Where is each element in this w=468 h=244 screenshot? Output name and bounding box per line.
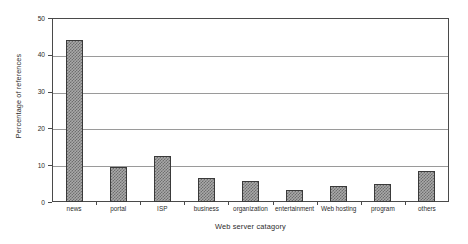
x-tick-label: Web hosting — [317, 205, 361, 213]
bar-news — [66, 40, 83, 202]
y-tick-label: 50 — [15, 15, 45, 22]
bar-portal — [110, 167, 127, 202]
bar-others — [418, 171, 435, 202]
x-tick-label: program — [361, 205, 405, 213]
bars-layer — [52, 18, 449, 202]
y-tick-mark — [48, 202, 52, 203]
x-tick-label: others — [405, 205, 449, 213]
y-tick-label: 40 — [15, 51, 45, 58]
y-tick-label: 0 — [15, 199, 45, 206]
bar-program — [374, 184, 391, 202]
y-tick-label: 20 — [15, 125, 45, 132]
bar-chart-figure: Percentage of references 01020304050 new… — [0, 0, 468, 244]
x-tick-label: news — [52, 205, 96, 213]
x-axis-labels: newsportalISPbusinessorganizationenterta… — [52, 205, 449, 217]
y-tick-label: 10 — [15, 162, 45, 169]
bar-business — [198, 178, 215, 202]
x-tick-label: ISP — [140, 205, 184, 213]
x-tick-label: organization — [228, 205, 272, 213]
x-axis-title: Web server catagory — [52, 222, 449, 231]
x-tick-label: business — [184, 205, 228, 213]
x-tick-label: portal — [96, 205, 140, 213]
x-tick-label: entertainment — [273, 205, 317, 213]
y-tick-label: 30 — [15, 88, 45, 95]
bar-web-hosting — [330, 186, 347, 202]
bar-isp — [154, 156, 171, 202]
bar-organization — [242, 181, 259, 202]
bar-entertainment — [286, 190, 303, 202]
